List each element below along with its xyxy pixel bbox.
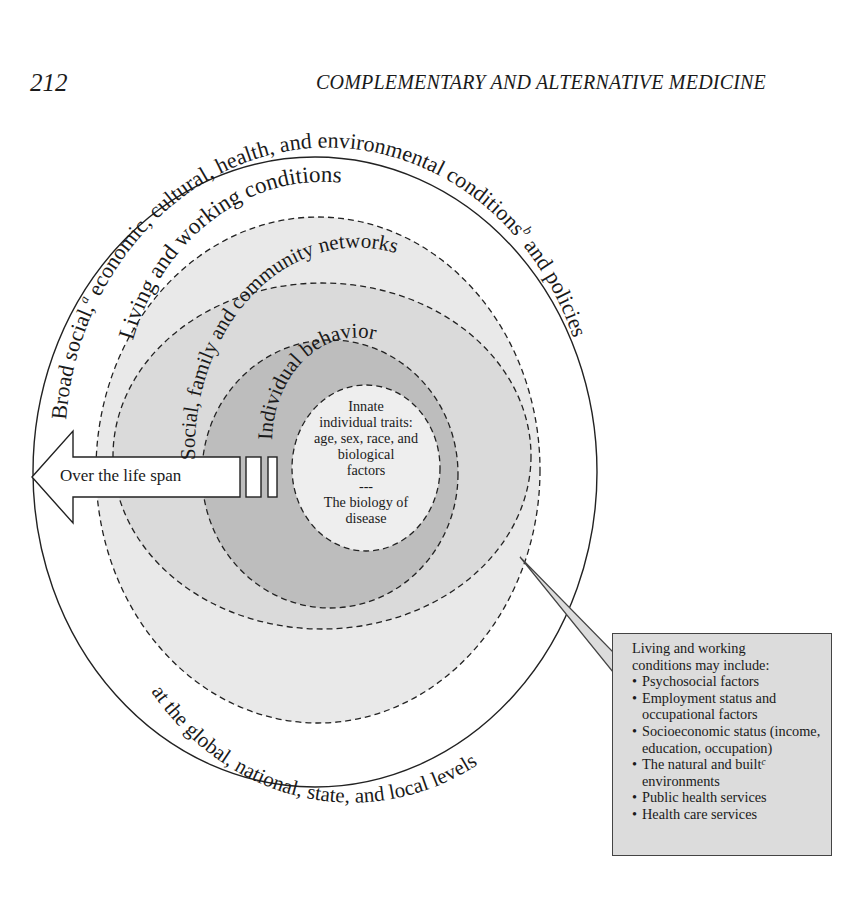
callout-title-line: conditions may include: — [632, 657, 831, 674]
center-line: Innate — [301, 398, 431, 414]
callout-item: Psychosocial factors — [632, 673, 831, 690]
center-line: individual traits: — [301, 414, 431, 430]
center-line: biological — [301, 446, 431, 462]
callout-item: Health care services — [632, 806, 831, 823]
callout-item: Public health services — [632, 789, 831, 806]
center-line: age, sex, race, and — [301, 430, 431, 446]
innate-traits-text: Innate individual traits: age, sex, race… — [301, 398, 431, 526]
callout-item: Socioeconomic status (income, education,… — [632, 723, 831, 756]
callout-item: The natural and builtc environments — [632, 756, 831, 789]
callout-title-line: Living and working — [632, 640, 831, 657]
living-conditions-callout: Living and working conditions may includ… — [612, 633, 832, 856]
callout-item: Employment status and occupational facto… — [632, 690, 831, 723]
callout-list: Psychosocial factors Employment status a… — [632, 673, 831, 822]
center-line: The biology of — [301, 494, 431, 510]
center-line: factors — [301, 462, 431, 478]
center-line: disease — [301, 510, 431, 526]
life-span-label: Over the life span — [60, 466, 181, 486]
center-separator: --- — [301, 478, 431, 494]
